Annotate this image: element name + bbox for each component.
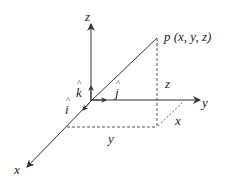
k-hat-label: k — [76, 86, 82, 99]
z-axis-label: z — [85, 10, 90, 23]
projection-z-label: z — [165, 77, 170, 90]
point-p-label: p (x, y, z) — [164, 30, 211, 43]
position-vector-line — [91, 38, 157, 101]
i-hat-label: i — [65, 103, 69, 116]
j-hat-label: j — [115, 86, 119, 99]
projection-x-label: x — [175, 114, 181, 127]
projection-y-label: y — [108, 132, 114, 145]
x-axis — [27, 101, 91, 167]
i-unit-vector — [83, 101, 91, 110]
y-axis-label: y — [202, 96, 208, 109]
x-axis-label: x — [14, 163, 20, 176]
